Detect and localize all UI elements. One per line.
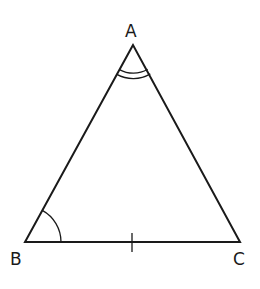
- vertex-label-b: B: [10, 249, 22, 269]
- triangle-diagram: A B C: [0, 0, 260, 289]
- vertex-label-c: C: [233, 249, 245, 269]
- vertex-label-a: A: [125, 21, 137, 41]
- angle-a-arc-outer: [117, 74, 150, 79]
- angle-a-arc-inner: [120, 69, 148, 73]
- angle-b-arc: [42, 210, 61, 242]
- triangle-abc: [25, 45, 240, 242]
